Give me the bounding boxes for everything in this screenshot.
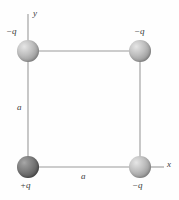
charge-label-bottom-left: +q: [20, 181, 31, 190]
y-axis-label: y: [33, 9, 37, 18]
side-label-bottom: a: [81, 172, 86, 181]
x-axis-label: x: [167, 160, 171, 169]
charge-label-bottom-right: −q: [132, 181, 143, 190]
charge-sphere-top-right: [129, 40, 151, 62]
charge-label-top-left: −q: [6, 27, 17, 36]
charge-sphere-bottom-right: [129, 156, 151, 178]
charge-square-diagram: −q −q +q −q y x a a: [0, 0, 179, 200]
charge-sphere-bottom-left: [17, 156, 39, 178]
charge-sphere-top-left: [17, 40, 39, 62]
charge-label-top-right: −q: [134, 27, 145, 36]
side-label-left: a: [17, 103, 22, 112]
